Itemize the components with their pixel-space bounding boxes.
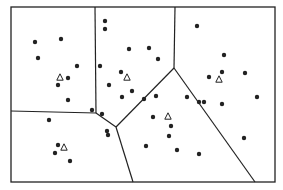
data-point — [243, 71, 247, 75]
triangle-icon — [61, 144, 67, 150]
data-point — [119, 70, 123, 74]
data-point — [242, 136, 246, 140]
cell-edge — [96, 113, 116, 127]
data-point — [127, 47, 131, 51]
data-point — [255, 95, 259, 99]
data-point — [222, 53, 226, 57]
data-point — [195, 24, 199, 28]
data-point — [56, 143, 60, 147]
cluster-centers — [57, 74, 222, 150]
data-point — [207, 75, 211, 79]
data-point — [197, 152, 201, 156]
cell-edge — [174, 7, 175, 68]
data-point — [53, 151, 57, 155]
data-point — [103, 27, 107, 31]
data-point — [98, 64, 102, 68]
data-point — [220, 102, 224, 106]
data-point — [156, 57, 160, 61]
cell-edge — [95, 7, 96, 113]
data-point — [142, 97, 146, 101]
data-point — [105, 129, 109, 133]
data-point — [147, 46, 151, 50]
data-point — [59, 37, 63, 41]
bounding-box — [11, 7, 275, 182]
cell-boundaries — [11, 7, 255, 182]
data-point — [66, 98, 70, 102]
triangle-icon — [57, 74, 63, 80]
cell-edge — [174, 68, 255, 182]
triangle-icon — [216, 76, 222, 82]
data-points — [33, 19, 259, 163]
cell-edge — [11, 111, 96, 113]
data-point — [120, 95, 124, 99]
data-point — [175, 148, 179, 152]
data-point — [220, 70, 224, 74]
data-point — [36, 56, 40, 60]
cell-edge — [116, 127, 133, 182]
data-point — [107, 83, 111, 87]
data-point — [185, 95, 189, 99]
voronoi-diagram — [0, 0, 283, 190]
data-point — [197, 100, 201, 104]
data-point — [154, 94, 158, 98]
data-point — [144, 144, 148, 148]
data-point — [66, 76, 70, 80]
data-point — [90, 108, 94, 112]
data-point — [100, 112, 104, 116]
data-point — [106, 133, 110, 137]
data-point — [151, 115, 155, 119]
triangle-icon — [124, 74, 130, 80]
triangle-icon — [165, 113, 171, 119]
data-point — [130, 89, 134, 93]
data-point — [75, 64, 79, 68]
data-point — [169, 124, 173, 128]
data-point — [33, 40, 37, 44]
data-point — [68, 159, 72, 163]
data-point — [103, 19, 107, 23]
data-point — [167, 134, 171, 138]
data-point — [47, 118, 51, 122]
data-point — [56, 83, 60, 87]
data-point — [202, 100, 206, 104]
